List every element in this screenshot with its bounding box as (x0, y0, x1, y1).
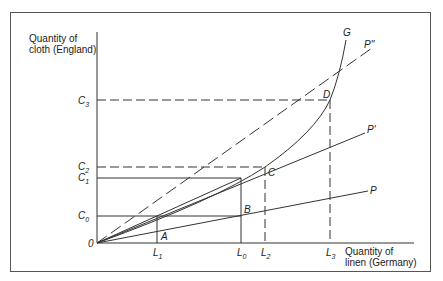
curve-p-double-prime-label: P" (364, 39, 375, 50)
ray-to-c1 (97, 178, 241, 243)
tick-l1: L1 (153, 247, 163, 260)
curve-p-prime-label: P' (367, 124, 377, 135)
tick-c3: C3 (78, 95, 89, 108)
curve-g-label: G (343, 27, 351, 38)
origin-label: 0 (88, 238, 94, 249)
tick-l3: L3 (326, 247, 336, 260)
point-d-label: D (323, 89, 330, 100)
price-line-p (97, 191, 368, 243)
tick-l2: L2 (261, 247, 271, 260)
trade-diagram: C3 C2 C1 C0 0 L1 L0 L2 L3 A B C D G P" P… (0, 0, 443, 281)
tick-c0: C0 (78, 210, 89, 223)
curve-g (97, 40, 346, 243)
price-line-p-double-prime (97, 48, 372, 243)
point-c-label: C (268, 167, 276, 178)
point-b-label: B (244, 204, 251, 215)
curve-p-label: P (370, 185, 377, 196)
tick-l0: L0 (237, 247, 247, 260)
point-a-label: A (160, 231, 168, 242)
price-line-p-prime (97, 133, 365, 243)
